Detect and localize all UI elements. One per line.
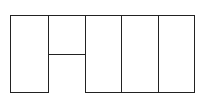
cell-diagram (0, 0, 201, 97)
